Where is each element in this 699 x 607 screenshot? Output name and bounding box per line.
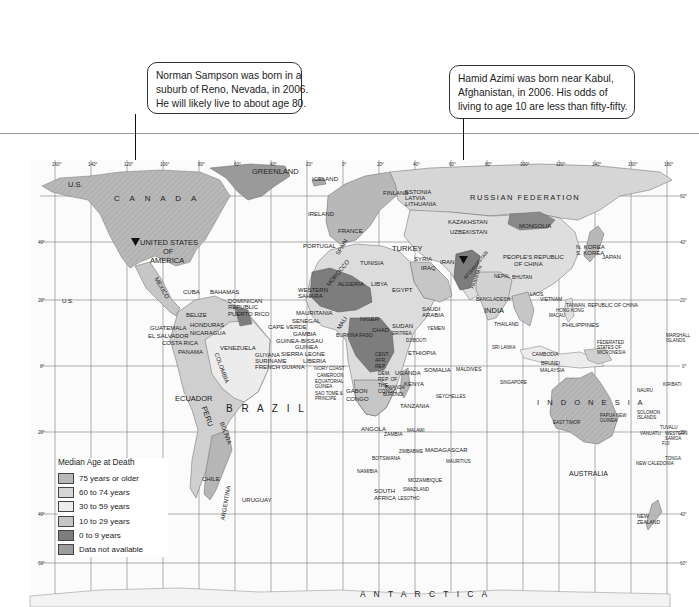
label-burundi: BURUNDI bbox=[383, 392, 404, 397]
lon-tick: 80° bbox=[485, 162, 492, 167]
lon-tick: 60° bbox=[234, 162, 241, 167]
label-uzbekistan: UZBEKISTAN bbox=[450, 229, 487, 235]
label-maldives: MALDIVES bbox=[456, 366, 481, 372]
lat-tick: 20° bbox=[680, 298, 687, 303]
label-chile: CHILE bbox=[202, 476, 220, 482]
label-nicaragua: NICARAGUA bbox=[190, 330, 226, 336]
label-singapore: SINGAPORE bbox=[500, 380, 527, 385]
lon-tick: 20° bbox=[377, 162, 384, 167]
lat-tick: 20° bbox=[38, 430, 45, 435]
legend-label: 60 to 74 years bbox=[79, 488, 130, 497]
label-brazil: B R A Z I L bbox=[226, 403, 307, 414]
label-rwanda: RWANDA bbox=[385, 385, 405, 390]
label-sao-tome: SAO TOME & PRINCIPE bbox=[315, 391, 347, 401]
label-dominican: DOMINICAN REPUBLIC bbox=[228, 298, 268, 310]
label-iceland: ICELAND bbox=[312, 176, 338, 182]
label-cuba: CUBA bbox=[183, 289, 200, 295]
label-tunisia: TUNISIA bbox=[360, 260, 384, 266]
label-syria: SYRIA bbox=[414, 256, 432, 262]
label-canada: C A N A D A bbox=[114, 194, 200, 203]
label-marshall: MARSHALL ISLANDS bbox=[666, 333, 692, 343]
label-vanuatu: VANUATU bbox=[640, 431, 661, 436]
lat-tick: 60° bbox=[680, 561, 687, 566]
label-indonesia: I N D O N E S I A bbox=[537, 398, 646, 407]
lat-tick: 40° bbox=[680, 512, 687, 517]
label-png: PAPUA NEW GUINEA bbox=[600, 413, 628, 423]
callout-text-line: He will likely live to about age 80. bbox=[156, 97, 293, 111]
label-kiribati: KIRIBATI bbox=[663, 382, 681, 387]
lon-tick: 100° bbox=[520, 162, 529, 167]
label-russia: RUSSIAN FEDERATION bbox=[470, 193, 580, 202]
label-car: CENT. AFR. REP. bbox=[375, 351, 393, 369]
label-madagascar: MADAGASCAR bbox=[425, 447, 468, 453]
label-namibia: NAMIBIA bbox=[357, 468, 378, 474]
label-china-2: OF CHINA bbox=[514, 261, 543, 267]
lat-tick: 60° bbox=[38, 561, 45, 566]
label-cameroon: CAMEROON bbox=[317, 373, 344, 378]
label-bhutan: BHUTAN bbox=[512, 274, 532, 280]
label-us-hawaii: U.S. bbox=[62, 298, 74, 304]
label-tanzania: TANZANIA bbox=[400, 403, 429, 409]
label-usa-1: UNITED STATES bbox=[140, 238, 198, 247]
label-somalia: SOMALIA bbox=[424, 367, 451, 373]
legend-swatch bbox=[58, 544, 74, 555]
label-el-salvador: EL SALVADOR bbox=[148, 333, 189, 339]
label-nauru: NAURU bbox=[637, 388, 653, 393]
lat-tick: 40° bbox=[38, 512, 45, 517]
legend-swatch bbox=[58, 473, 74, 484]
legend-label: 30 to 59 years bbox=[79, 502, 130, 511]
label-philippines: PHILIPPINES bbox=[562, 322, 599, 328]
label-malaysia: MALAYSIA bbox=[540, 367, 565, 373]
label-eq-guinea: EQUATORIAL GUINEA bbox=[315, 379, 345, 389]
label-vietnam: VIETNAM bbox=[540, 296, 562, 302]
lon-tick: 160° bbox=[52, 162, 61, 167]
label-micronesia: FEDERATED STATES OF MICRONESIA bbox=[597, 340, 637, 355]
label-seychelles: SEYCHELLES bbox=[436, 394, 466, 399]
label-kazakhstan: KAZAKHSTAN bbox=[448, 219, 488, 225]
callout-text-line: Hamid Azimi was born near Kabul, bbox=[458, 72, 626, 86]
label-belize: BELIZE bbox=[186, 312, 207, 318]
lat-tick: 40° bbox=[38, 240, 45, 245]
label-ethiopia: ETHIOPIA bbox=[408, 350, 436, 356]
callout-norman: Norman Sampson was born in a suburb of R… bbox=[147, 62, 302, 114]
lon-tick: 60° bbox=[449, 162, 456, 167]
label-ecuador: ECUADOR bbox=[175, 394, 213, 403]
label-tuvalu: TUVALU bbox=[660, 425, 677, 430]
callout-text-line: Afghanistan, in 2006. His odds of bbox=[458, 86, 626, 100]
label-malawi: MALAWI bbox=[407, 428, 425, 433]
label-greenland: GREENLAND bbox=[252, 167, 299, 176]
legend-label: Data not available bbox=[79, 545, 143, 554]
lon-tick: 40° bbox=[413, 162, 420, 167]
label-china-1: PEOPLE'S REPUBLIC bbox=[503, 254, 564, 260]
label-solomon: SOLOMON ISLANDS bbox=[637, 410, 665, 420]
label-swaziland: SWAZILAND bbox=[403, 487, 429, 492]
legend-item: 10 to 29 years bbox=[58, 514, 168, 528]
label-macau: MACAU bbox=[549, 313, 565, 318]
label-cape-verde: CAPE VERDE bbox=[268, 324, 307, 330]
legend-label: 10 to 29 years bbox=[79, 517, 130, 526]
lat-tick: 0° bbox=[682, 364, 686, 369]
label-usa-3: AMERICA bbox=[150, 256, 184, 265]
legend-swatch bbox=[58, 530, 74, 541]
label-zimbabwe: ZIMBABWE bbox=[399, 449, 423, 454]
label-lithuania: LITHUANIA bbox=[405, 201, 436, 207]
label-gambia: GAMBIA bbox=[293, 331, 316, 337]
label-lesotho: LESOTHO bbox=[398, 496, 420, 501]
label-kenya: KENYA bbox=[404, 381, 424, 387]
label-angola: ANGOLA bbox=[361, 426, 386, 432]
label-iraq: IRAQ bbox=[421, 265, 436, 271]
label-western-sahara: WESTERN SAHARA bbox=[298, 287, 328, 299]
lat-tick: 20° bbox=[38, 298, 45, 303]
label-east-timor: EAST TIMOR bbox=[553, 420, 580, 425]
lon-tick: 120° bbox=[556, 162, 565, 167]
label-japan: JAPAN bbox=[602, 254, 621, 260]
label-portugal: PORTUGAL bbox=[303, 243, 336, 249]
label-guinea: GUINEA bbox=[295, 344, 318, 350]
label-liberia: LIBERIA bbox=[303, 358, 326, 364]
label-botswana: BOTSWANA bbox=[372, 455, 400, 461]
divider-rule bbox=[0, 133, 699, 134]
label-burkina: BURKINA FASO bbox=[336, 332, 373, 338]
label-antarctica: A N T A R C T I C A bbox=[360, 589, 490, 599]
lon-tick: 0° bbox=[342, 162, 346, 167]
legend-item: Data not available bbox=[58, 542, 168, 556]
